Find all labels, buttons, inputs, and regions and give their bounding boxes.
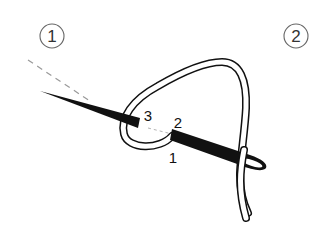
dashed-stitch-path <box>28 60 90 101</box>
step-marker-1-label: 1 <box>47 27 56 46</box>
thread-through-eye <box>241 150 247 218</box>
point-label-3: 3 <box>144 107 152 124</box>
stitch-diagram: 1 2 3 2 1 <box>0 0 312 248</box>
step-marker-2: 2 <box>284 24 308 48</box>
point-label-2: 2 <box>174 114 182 131</box>
point-label-1: 1 <box>169 149 177 166</box>
dashed-stitch-path-hidden <box>148 128 172 134</box>
needle-right-icon <box>170 129 266 170</box>
step-marker-1: 1 <box>40 24 64 48</box>
step-marker-2-label: 2 <box>291 27 300 46</box>
